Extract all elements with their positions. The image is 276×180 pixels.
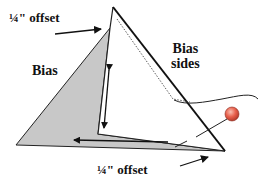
folded-flap bbox=[98, 7, 225, 151]
bias-sides-line1: Bias bbox=[171, 42, 200, 57]
offset-top-arrow bbox=[55, 29, 101, 34]
bias-sides-label: Bias sides bbox=[171, 42, 200, 71]
fabric-fold-diagram bbox=[0, 0, 276, 180]
pin-head-icon bbox=[225, 107, 239, 121]
offset-bottom-label: ¼" offset bbox=[97, 163, 148, 176]
offset-top-label: ¼" offset bbox=[9, 11, 60, 24]
bias-label: Bias bbox=[32, 64, 58, 78]
offset-bottom-arrow bbox=[180, 157, 208, 166]
bias-sides-line2: sides bbox=[171, 57, 200, 72]
